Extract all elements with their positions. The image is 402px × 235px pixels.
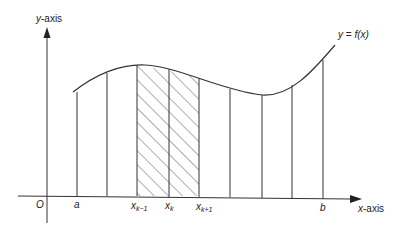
y-axis bbox=[44, 27, 51, 223]
partition-lines bbox=[77, 60, 323, 199]
point-label-xk: xk bbox=[164, 200, 174, 212]
x-axis bbox=[18, 195, 362, 203]
point-label-xk+1: xk+1 bbox=[195, 201, 213, 213]
riemann-sum-figure: y-axis x-axis O y = f(x) a xk−1 xk xk+1 … bbox=[0, 0, 402, 235]
x-axis-label: x-axis bbox=[357, 203, 384, 214]
point-label-xk-1: xk−1 bbox=[130, 200, 148, 212]
point-label-b: b bbox=[320, 202, 326, 213]
curve-f bbox=[73, 45, 335, 95]
shaded-region bbox=[137, 55, 199, 196]
x-axis-arrow-icon bbox=[350, 195, 362, 203]
point-label-a: a bbox=[74, 199, 80, 210]
origin-label: O bbox=[36, 199, 44, 210]
y-axis-arrow-icon bbox=[44, 27, 51, 38]
curve-label: y = f(x) bbox=[337, 29, 369, 40]
y-axis-label: y-axis bbox=[35, 13, 62, 24]
